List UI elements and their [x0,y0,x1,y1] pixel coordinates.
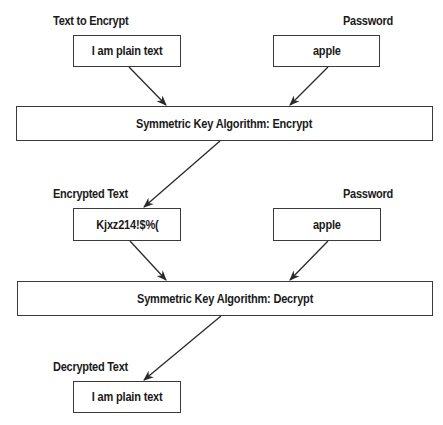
encrypt-algorithm-box: Symmetric Key Algorithm: Encrypt [16,106,433,141]
decrypt-password-label: Password [343,187,393,201]
encrypt-password-box: apple [273,35,380,67]
text-to-encrypt-label: Text to Encrypt [53,14,128,28]
plaintext-input-box: I am plain text [73,35,181,67]
decrypted-value: I am plain text [92,390,163,404]
arrow-decrypt-to-plaintext [144,316,221,380]
decrypted-text-label: Decrypted Text [53,360,128,374]
arrow-password-to-decrypt [290,241,328,280]
decrypt-algorithm-label: Symmetric Key Algorithm: Decrypt [137,292,313,306]
plaintext-value: I am plain text [92,44,163,58]
arrow-plaintext-to-encrypt [129,67,166,105]
encrypt-password-label: Password [343,14,393,28]
decrypted-output-box: I am plain text [73,381,181,413]
ciphertext-box: Kjxz214!$%( [73,208,181,241]
decrypt-password-box: apple [273,208,381,241]
encrypt-password-value: apple [313,44,341,58]
ciphertext-value: Kjxz214!$%( [96,218,158,232]
arrow-password-to-encrypt [290,67,328,105]
arrow-ciphertext-to-decrypt [130,241,166,280]
encrypt-algorithm-label: Symmetric Key Algorithm: Encrypt [136,117,312,131]
decrypt-password-value: apple [313,218,341,232]
decrypt-algorithm-box: Symmetric Key Algorithm: Decrypt [17,281,433,316]
encrypted-text-label: Encrypted Text [53,187,128,201]
arrow-encrypt-to-ciphertext [144,141,220,207]
